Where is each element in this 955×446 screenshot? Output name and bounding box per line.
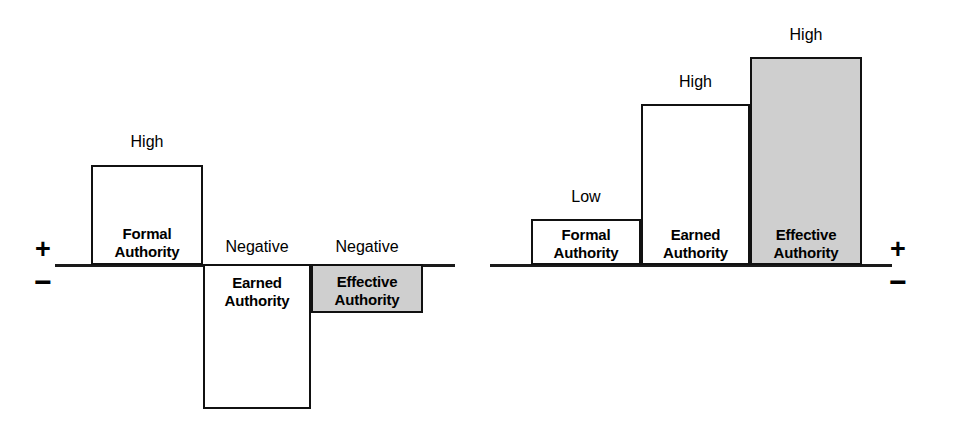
bar-effective-authority-right: Effective Authority bbox=[750, 57, 862, 265]
bar-label-line2: Authority bbox=[313, 291, 421, 309]
chart-panel-left: + − High Formal Authority Negative Earne… bbox=[0, 0, 470, 446]
value-label-effective-authority-right: High bbox=[750, 26, 862, 44]
bar-label-line1: Effective bbox=[337, 273, 398, 290]
axis-positive-sign-right: + bbox=[886, 236, 910, 263]
bar-label-line1: Earned bbox=[671, 226, 721, 243]
chart-panel-right: + − Low Formal Authority High Earned Aut… bbox=[470, 0, 955, 446]
axis-negative-sign-left: − bbox=[31, 267, 55, 297]
bar-label-line1: Effective bbox=[776, 226, 837, 243]
bar-label-line2: Authority bbox=[205, 292, 309, 310]
bar-label-line2: Authority bbox=[752, 244, 860, 262]
bar-formal-authority-right: Formal Authority bbox=[531, 219, 641, 265]
bar-label-effective-authority-left: Effective Authority bbox=[313, 273, 421, 309]
bar-earned-authority-right: Earned Authority bbox=[641, 104, 750, 265]
bar-label-formal-authority-left: Formal Authority bbox=[93, 225, 201, 261]
bar-label-earned-authority-left: Earned Authority bbox=[205, 274, 309, 310]
bar-label-earned-authority-right: Earned Authority bbox=[643, 226, 748, 262]
value-label-effective-authority-left: Negative bbox=[311, 238, 423, 256]
bar-label-line2: Authority bbox=[643, 244, 748, 262]
axis-positive-sign-left: + bbox=[31, 236, 55, 263]
value-label-earned-authority-left: Negative bbox=[203, 238, 311, 256]
bar-label-line2: Authority bbox=[533, 244, 639, 262]
bar-label-effective-authority-right: Effective Authority bbox=[752, 226, 860, 262]
bar-label-line1: Formal bbox=[562, 226, 611, 243]
authority-comparison-figure: + − High Formal Authority Negative Earne… bbox=[0, 0, 955, 446]
bar-label-formal-authority-right: Formal Authority bbox=[533, 226, 639, 262]
axis-negative-sign-right: − bbox=[886, 267, 910, 297]
bar-label-line2: Authority bbox=[93, 243, 201, 261]
bar-label-line1: Earned bbox=[232, 274, 282, 291]
bar-earned-authority-left: Earned Authority bbox=[203, 264, 311, 409]
bar-label-line1: Formal bbox=[123, 225, 172, 242]
value-label-formal-authority-right: Low bbox=[531, 188, 641, 206]
bar-formal-authority-left: Formal Authority bbox=[91, 165, 203, 265]
value-label-formal-authority-left: High bbox=[91, 133, 203, 151]
value-label-earned-authority-right: High bbox=[641, 73, 750, 91]
bar-effective-authority-left: Effective Authority bbox=[311, 264, 423, 313]
